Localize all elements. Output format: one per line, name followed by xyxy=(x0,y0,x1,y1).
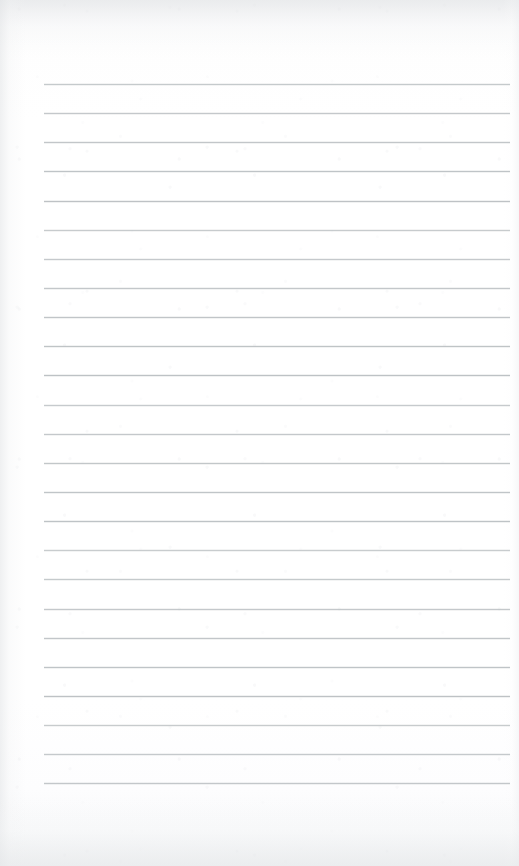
ruled-line xyxy=(44,783,510,784)
notebook-page xyxy=(0,0,519,866)
ruled-line xyxy=(44,142,510,143)
ruled-line xyxy=(44,492,510,493)
ruled-line xyxy=(44,375,510,376)
ruled-line xyxy=(44,638,510,639)
ruled-line xyxy=(44,754,510,755)
page-edge-shadow-top xyxy=(0,0,519,58)
ruled-line xyxy=(44,667,510,668)
ruled-line xyxy=(44,521,510,522)
ruled-line xyxy=(44,609,510,610)
ruled-line xyxy=(44,696,510,697)
ruled-line xyxy=(44,113,510,114)
ruled-line xyxy=(44,346,510,347)
ruled-line xyxy=(44,84,510,85)
ruled-line xyxy=(44,201,510,202)
ruled-line xyxy=(44,405,510,406)
ruled-line xyxy=(44,259,510,260)
ruled-line xyxy=(44,550,510,551)
ruled-line xyxy=(44,288,510,289)
ruled-line xyxy=(44,230,510,231)
ruled-line xyxy=(44,434,510,435)
ruled-line xyxy=(44,463,510,464)
ruled-line xyxy=(44,579,510,580)
page-edge-shadow-bottom xyxy=(0,796,519,866)
ruled-line xyxy=(44,725,510,726)
ruled-line xyxy=(44,317,510,318)
page-edge-shadow-left xyxy=(0,0,26,866)
ruled-line xyxy=(44,171,510,172)
